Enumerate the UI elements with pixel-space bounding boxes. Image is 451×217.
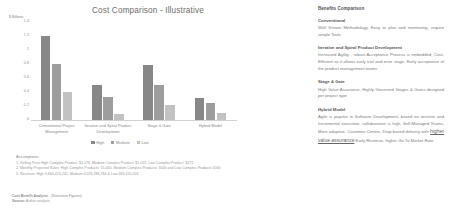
assumption-line: 3. Revenue: High 3,664,474,241, Medium 4… [16,172,234,178]
benefits-panel: Benefits Comparison ConventionalWell Kno… [318,6,444,152]
y-axis-tick: 0 [27,118,29,122]
bar-high[interactable] [92,85,102,120]
chart-title: Cost Comparison - Illustrative [92,6,204,15]
y-axis-tick: 0.8 [24,62,29,66]
legend-swatch-icon [111,141,114,144]
bar-group [82,22,133,120]
benefit-blocks: ConventionalWell Known Methodology, Easy… [318,18,444,145]
plot-area [31,22,236,120]
benefit-body: Well Known Methodology, Easy to plan and… [318,25,444,39]
footer-title-rest: - (Illustrative Figures) [48,194,82,198]
bar-high[interactable] [143,65,153,120]
bar-group [31,22,82,120]
benefit-body: High Value Assurance, Highly Governed St… [318,87,444,101]
chart-panel: Cost Comparison - Illustrative $ Billion… [0,0,240,217]
chart-legend: HighMediumLow [0,140,240,145]
x-axis-category-label: Conventional Project Management [31,123,82,134]
benefit-body: Increased Agility , robust Acceptance Pr… [318,52,444,72]
benefit-block: Stage & GateHigh Value Assurance, Highly… [318,79,444,100]
y-axis-tick: 0.4 [24,90,29,94]
y-axis-ticks: 1.41.210.80.60.40.20 [9,22,29,120]
slide-root: Cost Comparison - Illustrative $ Billion… [0,0,451,217]
benefit-block: Iterative and Spiral Product Development… [318,45,444,73]
legend-label: Low [141,140,148,145]
y-axis-tick: 0.6 [24,76,29,80]
benefit-heading: Hybrid Model [318,107,444,112]
chart-footer: Cost Benefit Analysis - (Illustrative Fi… [12,194,232,203]
assumptions-title: Assumptions: [16,154,234,159]
assumptions-lines: 1. Selling Price High Complex Product: $… [16,161,234,178]
benefit-heading: Stage & Gate [318,79,444,84]
bar-medium[interactable] [154,85,164,120]
footer-source-title: Cost Benefit Analysis - (Illustrative Fi… [12,194,232,198]
assumption-line: 2. Monthly Projected Sales: High Complex… [16,166,234,172]
benefit-emphasis: higher value assurance [318,128,444,143]
bar-medium[interactable] [52,64,62,120]
bar-low[interactable] [165,105,175,120]
bar-high[interactable] [41,36,51,120]
legend-swatch-icon [137,141,140,144]
benefit-block: ConventionalWell Known Methodology, Easy… [318,18,444,39]
legend-label: High [96,140,104,145]
footer-source-value: Author analysis [25,199,50,203]
legend-swatch-icon [91,141,94,144]
bar-low[interactable] [217,113,227,120]
bar-medium[interactable] [206,103,216,120]
benefits-title: Benefits Comparison [318,6,444,11]
y-axis-tick: 1 [27,48,29,52]
footer-title-bold: Cost Benefit Analysis [12,194,48,198]
bar-medium[interactable] [103,97,113,120]
assumptions-block: Assumptions: 1. Selling Price High Compl… [16,154,234,177]
bar-high[interactable] [195,98,205,120]
y-axis-unit-label: $ Billions [9,15,23,19]
y-axis-tick: 1.2 [24,34,29,38]
footer-source-label: Source: [12,199,25,203]
bar-group [134,22,185,120]
footer-source-line: Source: Author analysis [12,199,232,203]
bar-low[interactable] [63,92,73,120]
bar-group [185,22,236,120]
benefit-block: Hybrid ModelAgile is popular in Software… [318,107,444,145]
y-axis-tick: 1.4 [24,20,29,24]
legend-item-medium[interactable]: Medium [111,140,130,145]
x-axis-line [31,120,237,121]
legend-label: Medium [116,140,130,145]
legend-item-high[interactable]: High [91,140,104,145]
y-axis-tick: 0.2 [24,104,29,108]
x-axis-category-label: Iterative and Spiral Product Development [82,123,133,134]
legend-item-low[interactable]: Low [137,140,149,145]
benefit-body: Agile is popular in Software Development… [318,114,444,145]
benefit-heading: Conventional [318,18,444,23]
benefit-heading: Iterative and Spiral Product Development [318,45,444,50]
x-axis-category-label: Stage & Gate [134,123,185,129]
x-axis-category-label: Hybrid Model [185,123,236,129]
